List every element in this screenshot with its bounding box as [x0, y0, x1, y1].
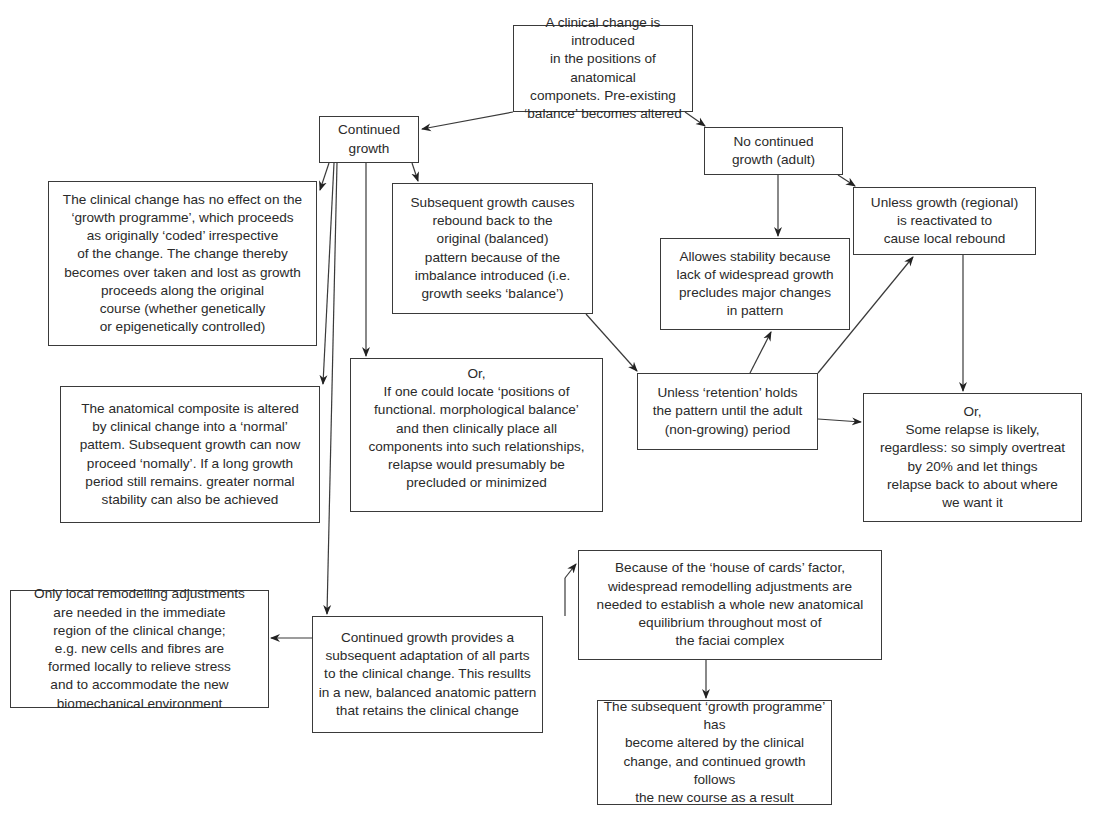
arrow-retention-to-allowes [750, 332, 771, 373]
node-text: The anatomical composite is altered by c… [80, 400, 301, 509]
node-text: Continued growth [338, 121, 400, 157]
node-text: Continued growth provides a subsequent a… [319, 629, 537, 720]
node-allowes-stability: Allowes stability because lack of widesp… [660, 238, 850, 330]
node-text: Unless growth (regional) is reactivated … [871, 194, 1018, 249]
node-continued-growth: Continued growth [319, 116, 419, 163]
node-text: Allowes stability because lack of widesp… [676, 248, 833, 321]
node-subsequent-growth-rebound: Subsequent growth causes rebound back to… [392, 183, 593, 314]
arrow-continued-to-rebound [412, 163, 418, 181]
node-clinical-change-introduced: A clinical change is introduced in the p… [513, 25, 693, 112]
node-text: Or, If one could locate ‘positions of fu… [368, 365, 584, 492]
node-unless-growth-reactivated: Unless growth (regional) is reactivated … [853, 187, 1036, 255]
arrow-retention-to-or-relapse [818, 419, 861, 422]
flowchart-canvas: A clinical change is introduced in the p… [0, 0, 1101, 827]
node-text: Because of the ‘house of cards’ factor, … [597, 559, 864, 650]
node-or-positions-of-balance: Or, If one could locate ‘positions of fu… [350, 358, 603, 512]
node-text: No continued growth (adult) [732, 133, 815, 169]
arrow-start-to-no-continued [685, 112, 705, 126]
node-continued-growth-adaptation: Continued growth provides a subsequent a… [312, 616, 543, 733]
node-no-effect-on-growth-programme: The clinical change has no effect on the… [48, 181, 317, 346]
arrow-continued-to-composite [323, 163, 334, 384]
arrow-no-continued-to-unless-growth [838, 175, 855, 186]
node-only-local-remodelling: Only local remodelling adjustments are n… [10, 590, 269, 708]
node-text: Only local remodelling adjustments are n… [34, 585, 245, 712]
arrow-start-to-continued [422, 112, 513, 129]
node-text: Or, Some relapse is likely, regardless: … [880, 403, 1065, 512]
node-text: A clinical change is introduced in the p… [518, 14, 688, 123]
arrow-continued-to-adaptation [327, 163, 337, 614]
node-text: Subsequent growth causes rebound back to… [411, 194, 575, 303]
node-growth-programme-altered: The subsequent ‘growth programme’ has be… [597, 700, 832, 805]
node-or-some-relapse: Or, Some relapse is likely, regardless: … [863, 393, 1082, 522]
node-text: Unless ‘retention’ holds the pattern unt… [653, 384, 803, 439]
arrow-adaptation-to-house-cards [565, 564, 576, 578]
node-house-of-cards: Because of the ‘house of cards’ factor, … [578, 550, 882, 660]
node-no-continued-growth: No continued growth (adult) [704, 127, 843, 175]
node-anatomical-composite-altered: The anatomical composite is altered by c… [60, 386, 320, 523]
node-unless-retention: Unless ‘retention’ holds the pattern unt… [637, 373, 818, 450]
node-text: The subsequent ‘growth programme’ has be… [602, 698, 827, 807]
node-text: The clinical change has no effect on the… [63, 191, 302, 337]
arrow-continued-to-no-effect [320, 163, 329, 190]
